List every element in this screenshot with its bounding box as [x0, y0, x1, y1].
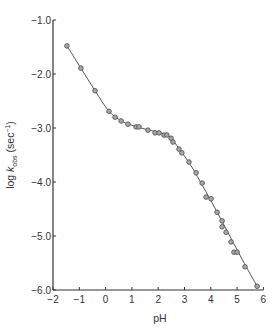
data-point	[107, 109, 112, 114]
data-point	[209, 196, 214, 201]
data-point	[165, 133, 170, 138]
data-point	[180, 151, 185, 156]
data-point	[204, 195, 209, 200]
data-point	[171, 140, 176, 145]
fit-line	[67, 46, 257, 286]
data-point	[157, 131, 162, 136]
data-points	[65, 44, 260, 289]
y-tick-label: −4.0	[31, 177, 51, 188]
x-tick-label: 0	[103, 294, 109, 305]
data-point	[235, 250, 240, 255]
data-point	[79, 66, 84, 71]
y-axis: −1.0−2.0−3.0−4.0−5.0−6.0	[31, 15, 56, 296]
x-axis-title: pH	[153, 312, 166, 324]
x-tick-label: 4	[208, 294, 214, 305]
data-point	[65, 44, 70, 49]
x-tick-label: −1	[74, 294, 86, 305]
data-point	[255, 284, 260, 289]
y-tick-label: −3.0	[31, 123, 51, 134]
data-point	[93, 88, 98, 93]
data-point	[194, 171, 199, 176]
data-point	[220, 219, 225, 224]
y-axis-title: log kobs (sec−1)	[4, 121, 18, 189]
data-point	[224, 230, 229, 235]
data-point	[113, 115, 118, 120]
x-tick-label: 6	[261, 294, 267, 305]
y-tick-label: −1.0	[31, 15, 51, 26]
data-point	[200, 181, 205, 186]
y-tick-label: −2.0	[31, 69, 51, 80]
data-point	[119, 119, 124, 124]
data-point	[243, 264, 248, 269]
data-point	[215, 210, 220, 215]
x-tick-label: 1	[129, 294, 135, 305]
data-point	[126, 122, 131, 127]
x-tick-label: 2	[155, 294, 161, 305]
data-point	[187, 160, 192, 165]
data-point	[220, 225, 225, 230]
data-point	[137, 125, 142, 130]
y-tick-label: −5.0	[31, 231, 51, 242]
x-tick-label: 3	[182, 294, 188, 305]
x-tick-label: 5	[234, 294, 240, 305]
svg-text:log kobs (sec−1): log kobs (sec−1)	[4, 121, 18, 189]
data-point	[146, 128, 151, 133]
x-axis: −2−10123456	[47, 287, 266, 305]
data-point	[229, 240, 234, 245]
chart: −1.0−2.0−3.0−4.0−5.0−6.0 −2−10123456 pH …	[0, 0, 279, 333]
x-tick-label: −2	[47, 294, 59, 305]
